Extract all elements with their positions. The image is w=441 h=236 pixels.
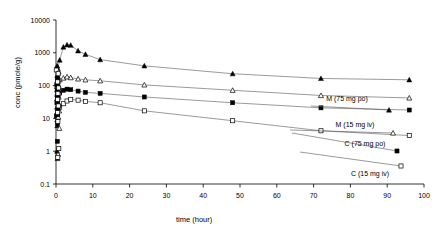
- x-tick-label: 40: [199, 192, 207, 199]
- legend-label-3: C (15 mg iv): [351, 170, 389, 178]
- legend-leader-line-1: [290, 130, 393, 133]
- data-point-filled-square: [76, 89, 80, 93]
- data-point-filled-square: [231, 101, 235, 105]
- y-tick-label: 1000: [34, 49, 50, 56]
- data-point-filled-triangle: [83, 52, 88, 57]
- legend-label-0: M (75 mg po): [326, 95, 368, 103]
- legend-group: M (75 mg po)M (15 mg iv)C (75 mg po)C (1…: [290, 95, 403, 178]
- data-point-open-square: [83, 99, 87, 103]
- x-tick-label: 70: [310, 192, 318, 199]
- data-point-open-square: [56, 155, 60, 159]
- data-point-filled-square: [142, 95, 146, 99]
- data-point-open-square: [76, 98, 80, 102]
- data-point-open-square: [231, 119, 235, 123]
- x-tick-label: 90: [383, 192, 391, 199]
- x-tick-label: 60: [273, 192, 281, 199]
- x-tick-label: 30: [163, 192, 171, 199]
- y-tick-label: 10: [42, 115, 50, 122]
- data-point-filled-triangle: [57, 58, 62, 63]
- data-point-filled-square: [83, 90, 87, 94]
- data-point-filled-square: [55, 139, 59, 143]
- x-tick-label: 50: [236, 192, 244, 199]
- data-point-filled-triangle: [76, 48, 81, 53]
- x-tick-label: 80: [347, 192, 355, 199]
- x-tick-label: 100: [418, 192, 430, 199]
- plot-area: 0.11101001000100000102030405060708090100…: [0, 0, 441, 236]
- data-point-open-square: [56, 97, 60, 101]
- y-tick-label: 100: [38, 82, 50, 89]
- data-point-filled-square: [98, 91, 102, 95]
- legend-leader-line-3: [300, 152, 401, 166]
- data-point-open-square: [407, 134, 411, 138]
- pharmacokinetic-chart: conc (pmole/g) time (hour) 0.11101001000…: [0, 0, 441, 236]
- x-tick-label: 10: [89, 192, 97, 199]
- data-point-open-square: [56, 120, 60, 124]
- x-tick-label: 20: [126, 192, 134, 199]
- series-0: [54, 42, 411, 85]
- data-point-open-square: [57, 86, 61, 90]
- data-point-open-square: [56, 80, 60, 84]
- data-point-filled-square: [407, 108, 411, 112]
- x-tick-label: 0: [54, 192, 58, 199]
- data-point-open-square: [56, 111, 60, 115]
- data-point-filled-square: [395, 149, 399, 153]
- legend-label-2: C (75 mg po): [345, 140, 386, 148]
- data-point-open-square: [56, 72, 60, 76]
- data-point-filled-square: [69, 88, 73, 92]
- legend-entry-1: M (15 mg iv): [290, 121, 396, 135]
- data-point-open-square: [56, 91, 60, 95]
- data-point-open-square: [399, 164, 403, 168]
- legend-entry-2: C (75 mg po): [292, 133, 399, 153]
- series-line-0: [57, 45, 409, 83]
- data-point-open-square: [56, 104, 60, 108]
- data-point-open-square: [57, 147, 61, 151]
- y-tick-label: 10000: [31, 17, 51, 24]
- data-point-open-square: [69, 97, 73, 101]
- data-point-open-square: [142, 109, 146, 113]
- y-tick-label: 0.1: [40, 181, 50, 188]
- data-point-filled-triangle: [98, 57, 103, 62]
- data-point-open-square: [98, 101, 102, 105]
- legend-entry-3: C (15 mg iv): [300, 152, 403, 178]
- y-tick-label: 1: [46, 148, 50, 155]
- legend-label-1: M (15 mg iv): [336, 121, 375, 129]
